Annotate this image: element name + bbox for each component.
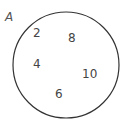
set-label-a: A (5, 11, 13, 23)
element-4: 4 (33, 58, 41, 70)
element-2: 2 (33, 27, 41, 39)
element-10: 10 (82, 68, 97, 80)
element-8: 8 (68, 32, 76, 44)
set-a-circle (13, 12, 119, 118)
venn-diagram (0, 0, 125, 122)
element-6: 6 (55, 88, 63, 100)
